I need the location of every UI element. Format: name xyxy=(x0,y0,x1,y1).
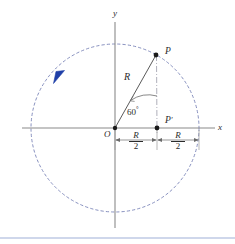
figure-container: y x O P P′ R 60° R 2 R 2 xyxy=(0,0,235,244)
dimension-label-left: R 2 xyxy=(129,131,143,151)
point-marker-origin xyxy=(113,126,117,130)
dimension-right-numerator: R xyxy=(171,131,185,140)
radius-line xyxy=(115,55,156,128)
dimension-left-numerator: R xyxy=(129,131,143,140)
dim-arrow-right-start xyxy=(157,138,162,142)
x-axis-label: x xyxy=(218,123,222,132)
dimension-right-denominator: 2 xyxy=(171,142,185,151)
point-marker-P-prime xyxy=(155,126,160,131)
point-label-P: P xyxy=(165,47,171,57)
prime-mark: ′ xyxy=(171,116,173,125)
y-axis-label: y xyxy=(113,9,117,18)
rotation-arrow-icon xyxy=(54,71,65,84)
projection-line xyxy=(157,55,158,133)
origin-label: O xyxy=(104,130,111,139)
dimension-left-denominator: 2 xyxy=(129,142,143,151)
radius-label: R xyxy=(124,72,130,82)
degree-symbol: ° xyxy=(136,105,139,112)
figure-canvas xyxy=(0,0,235,244)
angle-arc xyxy=(131,95,158,101)
dimension-label-right: R 2 xyxy=(171,131,185,151)
angle-label: 60° xyxy=(127,106,139,117)
dim-arrow-left-start xyxy=(115,138,120,142)
angle-value: 60 xyxy=(127,107,136,117)
dim-arrow-left-end xyxy=(152,138,157,142)
point-label-P-prime: P′ xyxy=(165,116,173,126)
point-marker-P xyxy=(154,53,159,58)
